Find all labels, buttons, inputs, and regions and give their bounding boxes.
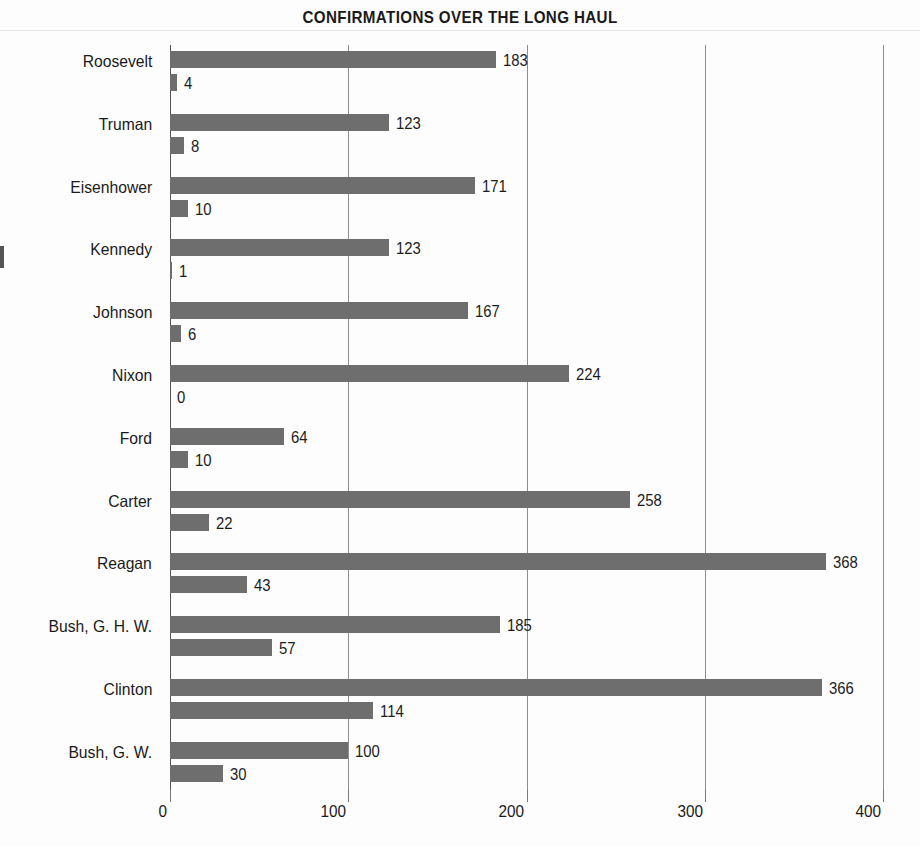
scan-artifact-top-rule bbox=[0, 30, 920, 31]
bar[interactable] bbox=[170, 200, 188, 217]
gridline-400 bbox=[883, 45, 884, 800]
bar[interactable] bbox=[170, 74, 177, 91]
category-label: Carter bbox=[108, 492, 152, 511]
category-label: Clinton bbox=[103, 680, 152, 699]
category-label: Ford bbox=[120, 429, 152, 448]
bar[interactable] bbox=[170, 365, 569, 382]
bar[interactable] bbox=[170, 325, 181, 342]
chart-title: CONFIRMATIONS OVER THE LONG HAUL bbox=[37, 8, 883, 27]
bar[interactable] bbox=[170, 51, 496, 68]
category-label: Truman bbox=[99, 115, 152, 134]
bar[interactable] bbox=[170, 428, 284, 445]
bar[interactable] bbox=[170, 639, 272, 656]
x-tick-mark-200 bbox=[527, 790, 528, 802]
x-tick-label-0: 0 bbox=[158, 802, 167, 822]
bar-value-label: 258 bbox=[637, 492, 662, 509]
x-tick-mark-0 bbox=[170, 790, 171, 802]
bar-value-label: 0 bbox=[177, 389, 185, 406]
bar-value-label: 8 bbox=[191, 138, 199, 155]
bar[interactable] bbox=[170, 702, 373, 719]
category-axis-labels: RooseveltTrumanEisenhowerKennedyJohnsonN… bbox=[0, 45, 152, 800]
bar[interactable] bbox=[170, 514, 209, 531]
category-label: Bush, G. W. bbox=[68, 743, 152, 762]
bar-value-label: 57 bbox=[279, 640, 296, 657]
bar[interactable] bbox=[170, 679, 822, 696]
bar-value-label: 1 bbox=[179, 263, 187, 280]
bar-value-label: 224 bbox=[576, 366, 601, 383]
bar-value-label: 30 bbox=[230, 766, 247, 783]
chart-page: CONFIRMATIONS OVER THE LONG HAUL Rooseve… bbox=[0, 0, 920, 847]
bar[interactable] bbox=[170, 491, 630, 508]
bar-value-label: 123 bbox=[396, 240, 421, 257]
category-label: Reagan bbox=[97, 554, 152, 573]
category-label: Kennedy bbox=[90, 240, 152, 259]
category-label: Bush, G. H. W. bbox=[48, 617, 152, 636]
bar[interactable] bbox=[170, 137, 184, 154]
plot-area: 1834123817110123116762240641025822368431… bbox=[170, 45, 883, 800]
bar[interactable] bbox=[170, 262, 172, 279]
bar[interactable] bbox=[170, 177, 475, 194]
bar[interactable] bbox=[170, 576, 247, 593]
category-label: Roosevelt bbox=[82, 52, 152, 71]
bar-value-label: 185 bbox=[507, 617, 532, 634]
bar-value-label: 123 bbox=[396, 115, 421, 132]
bar-value-label: 100 bbox=[355, 743, 380, 760]
bar[interactable] bbox=[170, 302, 468, 319]
bar[interactable] bbox=[170, 742, 348, 759]
bar-value-label: 366 bbox=[829, 680, 854, 697]
x-tick-label-200: 200 bbox=[499, 802, 525, 822]
bar-value-label: 64 bbox=[291, 429, 308, 446]
bar[interactable] bbox=[170, 553, 826, 570]
category-label: Eisenhower bbox=[70, 178, 152, 197]
bar-value-label: 167 bbox=[475, 303, 500, 320]
x-tick-mark-400 bbox=[883, 790, 884, 802]
bar[interactable] bbox=[170, 114, 389, 131]
bar[interactable] bbox=[170, 239, 389, 256]
category-label: Nixon bbox=[112, 366, 152, 385]
value-axis: 0100200300400 bbox=[170, 800, 883, 830]
bar-value-label: 114 bbox=[380, 703, 404, 720]
x-tick-label-300: 300 bbox=[677, 802, 703, 822]
category-label: Johnson bbox=[93, 303, 152, 322]
x-tick-label-400: 400 bbox=[855, 802, 881, 822]
bar[interactable] bbox=[170, 451, 188, 468]
bar[interactable] bbox=[170, 616, 500, 633]
x-tick-mark-100 bbox=[348, 790, 349, 802]
bar-value-label: 368 bbox=[833, 554, 858, 571]
bar-value-label: 171 bbox=[482, 178, 507, 195]
bar-value-label: 6 bbox=[188, 326, 196, 343]
bar-value-label: 4 bbox=[184, 75, 192, 92]
bar-value-label: 10 bbox=[195, 201, 212, 218]
x-tick-label-100: 100 bbox=[320, 802, 346, 822]
bar[interactable] bbox=[170, 765, 223, 782]
bar-value-label: 183 bbox=[503, 52, 528, 69]
bar-value-label: 22 bbox=[216, 515, 233, 532]
x-tick-mark-300 bbox=[705, 790, 706, 802]
bar-value-label: 10 bbox=[195, 452, 212, 469]
bar-value-label: 43 bbox=[254, 577, 271, 594]
